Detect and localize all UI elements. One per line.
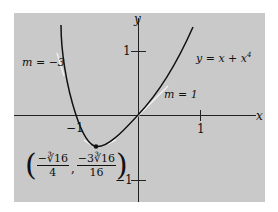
slope-label-1: m = 1: [164, 89, 198, 100]
right-paren: ): [116, 150, 128, 180]
slope-label-minus3: m = −3: [22, 57, 65, 68]
point-x-numerator: −∛16: [37, 153, 69, 166]
left-paren: (: [25, 150, 37, 180]
point-x-denominator: 4: [49, 166, 56, 178]
point-y-numerator: −3∛16: [77, 153, 116, 166]
function-label: y = x + x4: [196, 52, 252, 64]
y-axis-label: y: [134, 13, 141, 25]
x-tick-label-minus1: −1: [66, 122, 84, 134]
function-exponent: 4: [247, 51, 251, 59]
function-label-text: y = x + x: [196, 52, 247, 65]
chart-svg: [0, 0, 278, 212]
comma: ,: [71, 162, 75, 174]
x-tick-label-1: 1: [197, 123, 205, 135]
point-x-fraction: −∛16 4: [37, 153, 69, 178]
point-y-fraction: −3∛16 16: [77, 153, 116, 178]
y-tick-label-1: 1: [123, 45, 131, 57]
minimum-point-label: ( −∛16 4 , −3∛16 16 ): [25, 150, 128, 180]
x-axis-label: x: [256, 110, 263, 122]
point-y-denominator: 16: [89, 166, 103, 178]
minimum-point: [94, 144, 99, 149]
